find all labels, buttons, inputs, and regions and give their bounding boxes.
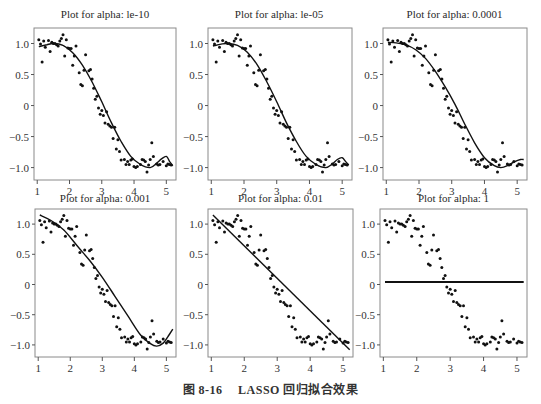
figure-caption: 图 8-16 LASSO 回归拟合效果: [0, 380, 541, 398]
x-tick-label: 2: [414, 362, 420, 374]
subplot-alpha-0.001: Plot for alpha: 0.001 1.00.50−0.5−1.0123…: [0, 190, 180, 380]
fit-line: [213, 215, 350, 350]
fit-line: [40, 215, 173, 346]
plot-area: 1.00.50−0.5−1.012345: [178, 0, 358, 190]
y-tick-label: −1.0: [358, 162, 378, 174]
plot-area: 1.00.50−0.5−1.012345: [178, 190, 358, 380]
x-tick-label: 5: [514, 362, 520, 374]
subplot-alpha-0.01: Plot for alpha: 0.01 1.00.50−0.5−1.01234…: [178, 190, 358, 380]
subplot-alpha-0.0001: Plot for alpha: 0.0001 1.00.50−0.5−1.012…: [356, 0, 541, 190]
y-tick-label: 1.0: [189, 218, 203, 230]
y-tick-label: 0.5: [364, 69, 378, 81]
x-tick-label: 1: [209, 362, 215, 374]
y-tick-label: 1.0: [15, 38, 29, 50]
caption-label: 图 8-16: [183, 383, 223, 397]
y-tick-label: 1.0: [364, 38, 378, 50]
y-tick-label: −0.5: [358, 131, 378, 143]
y-tick-label: 0: [370, 279, 376, 291]
x-tick-label: 5: [340, 362, 346, 374]
caption-text: LASSO 回归拟合效果: [238, 383, 358, 397]
scatter-points: [211, 33, 348, 173]
fit-line: [213, 43, 349, 167]
x-tick-label: 3: [274, 362, 280, 374]
subplot-alpha-1: Plot for alpha: 1 1.00.50−0.5−1.012345: [356, 190, 541, 380]
y-tick-label: 0.5: [361, 248, 375, 260]
fit-line: [388, 42, 524, 167]
y-tick-label: −0.5: [355, 309, 375, 321]
x-tick-label: 2: [68, 362, 74, 374]
plot-area: 1.00.50−0.5−1.012345: [356, 190, 541, 380]
x-tick-label: 3: [447, 362, 453, 374]
x-tick-label: 2: [242, 362, 248, 374]
y-tick-label: −1.0: [10, 339, 30, 351]
y-tick-label: −1.0: [355, 339, 375, 351]
scatter-points: [37, 33, 172, 173]
y-tick-label: −1.0: [183, 339, 203, 351]
x-tick-label: 3: [100, 362, 106, 374]
axes-frame: [34, 28, 176, 180]
y-tick-label: 1.0: [361, 218, 375, 230]
y-tick-label: 0: [198, 279, 204, 291]
y-tick-label: 0.5: [189, 248, 203, 260]
y-tick-label: 0.5: [189, 69, 203, 81]
x-tick-label: 4: [132, 362, 138, 374]
y-tick-label: 0: [25, 279, 31, 291]
y-tick-label: −0.5: [10, 309, 30, 321]
y-tick-label: 0.5: [16, 248, 30, 260]
y-tick-label: −0.5: [9, 131, 29, 143]
fit-line: [39, 43, 173, 167]
y-tick-label: 0: [24, 100, 30, 112]
y-tick-label: 1.0: [16, 218, 30, 230]
plot-area: 1.00.50−0.5−1.012345: [356, 0, 541, 190]
subplot-alpha-1e-10: Plot for alpha: le-10 1.00.50−0.5−1.0123…: [0, 0, 180, 190]
y-tick-label: −1.0: [9, 162, 29, 174]
plot-area: 1.00.50−0.5−1.012345: [0, 190, 180, 380]
x-tick-label: 5: [164, 362, 170, 374]
y-tick-label: 1.0: [189, 38, 203, 50]
y-tick-label: 0.5: [15, 69, 29, 81]
x-tick-label: 1: [381, 362, 387, 374]
subplot-alpha-1e-05: Plot for alpha: le-05 1.00.50−0.5−1.0123…: [178, 0, 358, 190]
x-tick-label: 4: [481, 362, 487, 374]
axes-frame: [208, 28, 352, 180]
x-tick-label: 1: [35, 362, 41, 374]
y-tick-label: −0.5: [183, 131, 203, 143]
y-tick-label: −0.5: [183, 309, 203, 321]
y-tick-label: 0: [198, 100, 204, 112]
y-tick-label: 0: [373, 100, 379, 112]
y-tick-label: −1.0: [183, 162, 203, 174]
x-tick-label: 4: [307, 362, 313, 374]
plot-area: 1.00.50−0.5−1.012345: [0, 0, 180, 190]
